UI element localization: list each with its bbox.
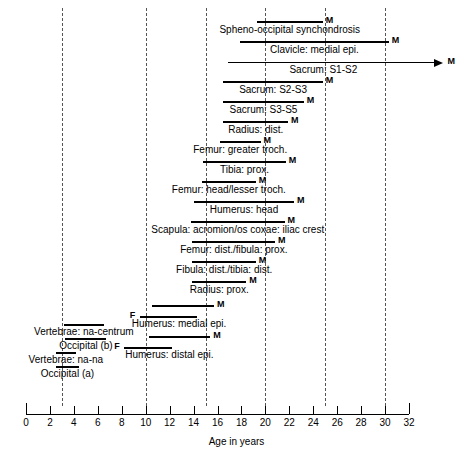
x-axis-tick-label: 8 (110, 417, 134, 428)
x-axis-tick-label: 32 (397, 417, 421, 428)
x-axis-tick-label: 0 (14, 417, 38, 428)
x-axis-tick (361, 406, 362, 414)
x-axis-tick (337, 406, 338, 414)
range-bar-male (191, 221, 284, 223)
x-axis-tick (50, 406, 51, 414)
x-axis-tick-label: 22 (277, 417, 301, 428)
x-axis-tick-label: 20 (253, 417, 277, 428)
row-label: Femur: greater troch. (193, 144, 287, 155)
x-axis-tick-label: 2 (38, 417, 62, 428)
x-axis-tick-label: 24 (301, 417, 325, 428)
x-axis-tick (146, 406, 147, 414)
row-label: Spheno-occipital synchondrosis (219, 24, 360, 35)
x-axis-tick (241, 406, 242, 414)
x-axis-tick-label: 14 (182, 417, 206, 428)
sex-marker-male: M (392, 36, 400, 45)
row-label: Tibia: prox. (220, 164, 269, 175)
row-label: Occipital (b) (59, 340, 112, 351)
gridline (206, 8, 207, 406)
x-axis-tick (265, 406, 266, 414)
row-label: Humerus: medial epi. (132, 318, 226, 329)
range-bar-male (152, 305, 214, 307)
x-axis-tick (313, 406, 314, 414)
x-axis-title: Age in years (0, 436, 473, 447)
x-axis-tick (385, 406, 386, 414)
range-bar-male (240, 41, 388, 43)
row-label: Sacrum: S1-S2 (289, 64, 357, 75)
row-label: Radius: dist. (228, 124, 283, 135)
x-axis-tick-label: 10 (134, 417, 158, 428)
x-axis-line (26, 414, 409, 415)
sex-marker-male: M (297, 196, 305, 205)
x-axis-tick (26, 403, 27, 414)
sex-marker-male: M (307, 96, 315, 105)
arrowhead-icon (434, 59, 443, 67)
row-label: Sacrum: S2-S3 (239, 84, 307, 95)
range-bar-male (149, 336, 210, 338)
sex-marker-male: M (289, 156, 297, 165)
x-axis-tick (194, 406, 195, 414)
row-label: Scapula: acromion/os coxae: iliac crest (151, 224, 324, 235)
epiphyseal-fusion-chart: MSpheno-occipital synchondrosisMClavicle… (0, 0, 473, 462)
gridline (385, 8, 386, 406)
x-axis-tick-label: 30 (373, 417, 397, 428)
x-axis-tick (74, 406, 75, 414)
range-bar-male (257, 21, 323, 23)
row-label: Vertebrae: na-na (29, 354, 104, 365)
x-axis-tick-label: 12 (158, 417, 182, 428)
x-axis-tick (218, 406, 219, 414)
range-bar-male (223, 81, 322, 83)
row-label: Humerus: head (210, 204, 278, 215)
x-axis-tick (98, 406, 99, 414)
row-label: Fibula: dist./tibia: dist. (176, 264, 272, 275)
x-axis-tick-label: 18 (229, 417, 253, 428)
sex-marker-male: M (213, 331, 221, 340)
x-axis-tick-label: 28 (349, 417, 373, 428)
x-axis-tick (409, 403, 410, 414)
range-bar-male (194, 201, 295, 203)
row-label: Radius: prox. (190, 284, 249, 295)
range-bar-male (203, 161, 286, 163)
row-label: Vertebrae: na-centrum (34, 326, 134, 337)
range-bar-male (223, 121, 288, 123)
x-axis-tick-label: 4 (62, 417, 86, 428)
row-label: Femur: head/lesser troch. (172, 184, 286, 195)
row-label: Sacrum: S3-S5 (230, 104, 298, 115)
row-label: Femur: dist./fibula: prox. (180, 244, 287, 255)
sex-marker-male: M (217, 300, 225, 309)
x-axis-tick-label: 26 (325, 417, 349, 428)
range-bar-male (192, 261, 255, 263)
row-label: Clavicle: medial epi. (270, 44, 359, 55)
row-label: Humerus: distal epi. (125, 349, 213, 360)
sex-marker-female: F (114, 342, 120, 351)
range-bar-male (192, 281, 246, 283)
range-bar-open-ended (228, 62, 433, 63)
row-label: Occipital (a) (41, 368, 94, 379)
range-bar-male (192, 241, 275, 243)
x-axis-tick-label: 16 (206, 417, 230, 428)
range-bar-male (202, 181, 256, 183)
sex-marker-male: M (448, 57, 456, 66)
sex-marker-male: M (249, 276, 257, 285)
range-bar-male (223, 101, 303, 103)
sex-marker-male: M (291, 116, 299, 125)
x-axis-tick (122, 406, 123, 414)
range-bar-male (220, 141, 261, 143)
sex-marker-male: M (326, 76, 334, 85)
plot-area: MSpheno-occipital synchondrosisMClavicle… (0, 0, 473, 462)
x-axis-tick (289, 406, 290, 414)
x-axis-tick (170, 406, 171, 414)
x-axis-tick-label: 6 (86, 417, 110, 428)
